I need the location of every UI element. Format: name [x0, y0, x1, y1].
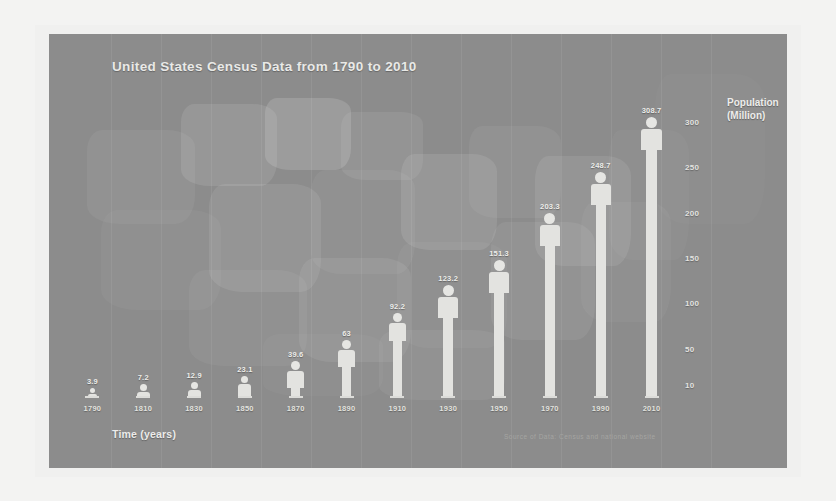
- bar-1850[interactable]: 23.1: [222, 365, 268, 396]
- person-icon: [489, 260, 509, 396]
- person-icon: [338, 340, 355, 396]
- person-icon: [137, 384, 150, 396]
- x-tick-label-1830: 1830: [171, 404, 217, 413]
- y-tick-label-50: 50: [685, 345, 719, 354]
- bar-value-label: 63: [342, 329, 351, 338]
- bar-1810[interactable]: 7.2: [120, 373, 166, 396]
- bar-value-label: 203.3: [540, 202, 560, 211]
- bar-stem: [291, 388, 300, 396]
- chart-panel: United States Census Data from 1790 to 2…: [49, 34, 787, 468]
- person-icon: [641, 117, 661, 396]
- person-body: [287, 371, 304, 388]
- bar-value-label: 151.3: [489, 249, 509, 258]
- bar-value-label: 308.7: [642, 106, 662, 115]
- x-tick: [85, 396, 99, 398]
- y-tick-label-10: 10: [685, 381, 719, 390]
- person-head: [393, 313, 402, 322]
- y-axis-label-line2: (Million): [727, 109, 779, 122]
- x-tick: [289, 396, 303, 398]
- bar-stem: [545, 246, 555, 396]
- x-tick: [492, 396, 506, 398]
- person-head: [595, 172, 606, 183]
- bar-1910[interactable]: 92.2: [374, 302, 420, 396]
- bar-1990[interactable]: 248.7: [578, 161, 624, 396]
- chart-title: United States Census Data from 1790 to 2…: [112, 59, 417, 74]
- person-body: [540, 225, 560, 246]
- person-icon: [188, 382, 201, 396]
- x-axis: 1790181018301850187018901910193019501970…: [67, 396, 677, 412]
- bar-1930[interactable]: 123.2: [425, 274, 471, 396]
- x-axis-label: Time (years): [112, 428, 176, 440]
- y-tick-label-100: 100: [685, 299, 719, 308]
- person-body: [641, 129, 661, 150]
- x-tick-label-1970: 1970: [527, 404, 573, 413]
- person-body: [591, 184, 611, 205]
- bar-value-label: 248.7: [591, 161, 611, 170]
- x-tick-label-1790: 1790: [69, 404, 115, 413]
- bar-stem: [443, 318, 453, 396]
- y-axis-label: Population (Million): [727, 96, 779, 122]
- x-tick: [340, 396, 354, 398]
- bar-value-label: 7.2: [138, 373, 149, 382]
- person-body: [238, 384, 251, 396]
- person-head: [291, 361, 300, 370]
- person-head: [140, 384, 147, 391]
- bar-1890[interactable]: 63: [324, 329, 370, 396]
- person-icon: [389, 313, 406, 396]
- bar-stem: [494, 293, 504, 396]
- bar-value-label: 12.9: [186, 371, 201, 380]
- bar-stem: [393, 341, 402, 396]
- bar-value-label: 92.2: [390, 302, 405, 311]
- bar-stem: [596, 205, 606, 396]
- y-tick-label-300: 300: [685, 118, 719, 127]
- bar-value-label: 3.9: [87, 377, 98, 386]
- bar-1830[interactable]: 12.9: [171, 371, 217, 396]
- person-head: [443, 285, 454, 296]
- x-tick-label-1870: 1870: [273, 404, 319, 413]
- person-body: [489, 272, 509, 293]
- x-tick-label-1810: 1810: [120, 404, 166, 413]
- x-tick: [441, 396, 455, 398]
- bar-stem: [342, 367, 351, 396]
- bar-value-label: 39.6: [288, 350, 303, 359]
- y-axis: 3002502001501005010: [685, 80, 725, 396]
- person-icon: [88, 388, 97, 396]
- bar-stem: [646, 150, 656, 396]
- person-head: [342, 340, 351, 349]
- bar-1950[interactable]: 151.3: [476, 249, 522, 396]
- person-head: [494, 260, 505, 271]
- bar-value-label: 123.2: [438, 274, 458, 283]
- y-tick-label-250: 250: [685, 163, 719, 172]
- person-head: [646, 117, 657, 128]
- bar-1790[interactable]: 3.9: [69, 377, 115, 396]
- person-head: [191, 382, 198, 389]
- x-tick: [136, 396, 150, 398]
- person-body: [389, 323, 406, 340]
- bar-value-label: 23.1: [237, 365, 252, 374]
- y-axis-label-line1: Population: [727, 96, 779, 109]
- person-head: [544, 213, 555, 224]
- bar-2010[interactable]: 308.7: [629, 106, 675, 396]
- person-icon: [591, 172, 611, 396]
- x-tick: [187, 396, 201, 398]
- y-tick-label-150: 150: [685, 254, 719, 263]
- x-tick-label-1910: 1910: [374, 404, 420, 413]
- person-body: [338, 350, 355, 367]
- x-tick-label-1950: 1950: [476, 404, 522, 413]
- person-body: [438, 297, 458, 318]
- bar-1870[interactable]: 39.6: [273, 350, 319, 396]
- person-icon: [438, 285, 458, 396]
- x-tick-label-1890: 1890: [324, 404, 370, 413]
- x-tick: [238, 396, 252, 398]
- x-tick-label-1990: 1990: [578, 404, 624, 413]
- source-note: Source of Data: Census and national webs…: [504, 433, 656, 440]
- plot-area: 3.97.212.923.139.66392.2123.2151.3203.32…: [67, 80, 677, 396]
- person-icon: [238, 376, 251, 396]
- x-tick: [543, 396, 557, 398]
- chart-card: United States Census Data from 1790 to 2…: [35, 25, 801, 477]
- x-tick: [594, 396, 608, 398]
- bar-1970[interactable]: 203.3: [527, 202, 573, 396]
- person-icon: [287, 361, 304, 396]
- x-tick-label-1850: 1850: [222, 404, 268, 413]
- x-tick: [390, 396, 404, 398]
